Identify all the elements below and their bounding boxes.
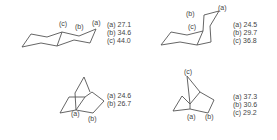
label-b: (b)	[75, 23, 84, 31]
trans-decalin-structure	[22, 29, 96, 47]
shift-values-norbornane: (a) 37.3 (b) 30.6 (c) 29.2	[233, 93, 257, 117]
label-c: (c)	[59, 20, 67, 28]
shift-b: (b) 26.7	[107, 100, 131, 108]
label-a: (a)	[92, 19, 101, 27]
shift-values-bicyclooctane: (a) 24.6 (b) 26.7	[107, 92, 131, 108]
shift-b: (b) 29.7	[233, 29, 257, 37]
shift-a: (a) 37.3	[233, 93, 257, 101]
bicyclooctane-structure	[60, 77, 104, 113]
label-a: (a)	[187, 113, 196, 121]
shift-a: (a) 24.5	[233, 21, 257, 29]
shift-b: (b) 34.6	[107, 29, 131, 37]
label-b: (b)	[205, 113, 214, 121]
shift-c: (c) 36.8	[233, 37, 257, 45]
label-c: (c)	[188, 23, 196, 31]
label-b: (b)	[186, 10, 195, 18]
shift-values-cis-decalin: (a) 24.5 (b) 29.7 (c) 36.8	[233, 21, 257, 45]
shift-c: (c) 29.2	[233, 109, 257, 117]
label-a: (a)	[218, 4, 227, 12]
shift-b: (b) 30.6	[233, 101, 257, 109]
label-b: (b)	[88, 115, 97, 123]
shift-values-trans-decalin: (a) 27.1 (b) 34.6 (c) 44.0	[107, 21, 131, 45]
shift-a: (a) 24.6	[107, 92, 131, 100]
norbornane-structure	[173, 76, 214, 113]
shift-a: (a) 27.1	[107, 21, 131, 29]
label-a: (a)	[71, 110, 80, 118]
shift-c: (c) 44.0	[107, 37, 131, 45]
label-c: (c)	[184, 68, 192, 76]
